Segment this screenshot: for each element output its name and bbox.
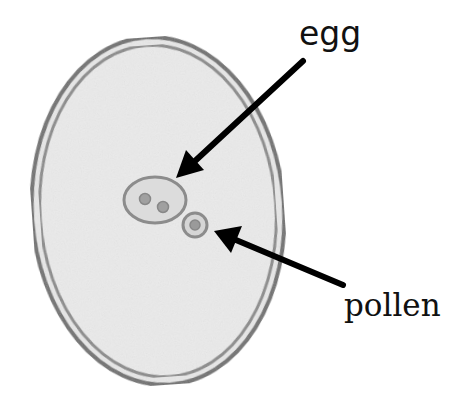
egg-nucleus-2 [158, 202, 169, 213]
pollen-cell [183, 213, 207, 237]
egg-cell [124, 177, 186, 223]
pollen-label: pollen [344, 290, 441, 321]
egg-label: egg [299, 17, 361, 50]
ovule-diagram [0, 0, 471, 411]
pollen-nucleus [190, 220, 200, 230]
egg-nucleus-1 [140, 194, 151, 205]
